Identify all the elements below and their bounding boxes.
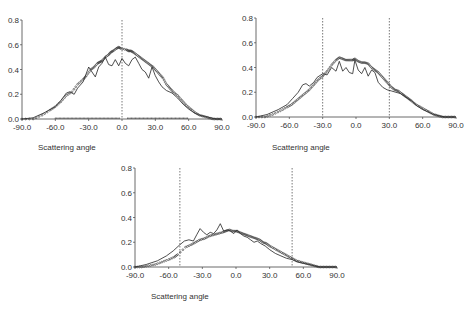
data-point	[60, 101, 62, 103]
data-point	[172, 257, 174, 259]
x-tick-label: 60.0	[415, 121, 431, 130]
data-point	[131, 118, 132, 119]
data-point	[179, 251, 181, 253]
data-point	[72, 118, 73, 119]
data-point	[73, 88, 75, 90]
data-point	[184, 118, 185, 119]
data-point	[56, 118, 57, 119]
data-point	[163, 118, 164, 119]
data-point	[170, 258, 172, 260]
data-point	[150, 265, 152, 267]
y-tick-label: 0.6	[8, 41, 20, 50]
data-point	[79, 82, 81, 84]
panel-top-right: 0.00.20.40.60.8-90.0-60.0-30.00.030.060.…	[242, 14, 464, 152]
data-point	[59, 118, 60, 119]
data-point	[154, 264, 156, 266]
x-tick-label: -60.0	[160, 271, 179, 280]
x-tick-label: 30.0	[262, 271, 278, 280]
data-point	[115, 118, 116, 119]
data-point	[150, 118, 151, 119]
data-point	[85, 118, 86, 119]
figure-canvas: 0.00.20.40.60.8-90.0-60.0-30.00.030.060.…	[0, 0, 473, 311]
data-point	[134, 118, 135, 119]
data-point	[186, 118, 187, 119]
panel-bottom: 0.00.20.40.60.8-90.0-60.0-30.00.030.060.…	[121, 164, 345, 301]
data-point	[136, 118, 137, 119]
data-point	[323, 74, 325, 76]
x-tick-label: -90.0	[13, 123, 32, 132]
x-tick-label: 60.0	[296, 271, 312, 280]
data-point	[145, 265, 147, 267]
x-tick-label: 30.0	[382, 121, 398, 130]
data-point	[68, 118, 69, 119]
data-point	[157, 263, 159, 265]
x-tick-label: 60.0	[181, 123, 197, 132]
data-point	[188, 245, 190, 247]
data-point	[112, 118, 113, 119]
data-point	[64, 97, 66, 99]
data-point	[107, 118, 108, 119]
data-point	[99, 118, 100, 119]
data-point	[97, 118, 98, 119]
data-point	[130, 118, 131, 119]
data-point	[163, 260, 165, 262]
data-point	[158, 118, 159, 119]
x-tick-label: -60.0	[46, 123, 65, 132]
data-point	[132, 118, 133, 119]
x-tick-label: -30.0	[314, 121, 333, 130]
data-point	[105, 118, 106, 119]
data-point	[96, 118, 97, 119]
data-point	[313, 84, 315, 86]
x-tick-label: -90.0	[126, 271, 145, 280]
data-point	[269, 114, 271, 116]
data-point	[109, 118, 110, 119]
data-point	[178, 118, 179, 119]
data-point	[180, 98, 182, 100]
data-point	[44, 113, 46, 115]
data-point	[103, 118, 104, 119]
data-point	[159, 262, 161, 264]
data-point	[166, 260, 168, 262]
data-point	[187, 118, 188, 119]
data-point	[95, 118, 96, 119]
data-point	[174, 118, 175, 119]
data-point	[58, 102, 60, 104]
data-point	[177, 95, 179, 97]
data-point	[316, 81, 318, 83]
data-point	[164, 118, 165, 119]
x-tick-label: 90.0	[214, 123, 230, 132]
x-tick-label: 30.0	[148, 123, 164, 132]
data-point	[177, 254, 179, 256]
data-point	[143, 118, 144, 119]
data-point	[171, 118, 172, 119]
x-tick-label: -60.0	[280, 121, 299, 130]
data-point	[84, 118, 85, 119]
data-point	[277, 111, 279, 113]
data-point	[61, 118, 62, 119]
y-tick-label: 0.8	[242, 14, 254, 23]
data-point	[310, 87, 312, 89]
y-tick-label: 0.2	[8, 90, 20, 99]
y-tick-label: 0.2	[242, 88, 254, 97]
data-point	[38, 116, 40, 118]
x-tick-label: -30.0	[80, 123, 99, 132]
data-point	[156, 118, 157, 119]
data-point	[88, 118, 89, 119]
data-point	[168, 118, 169, 119]
data-point	[175, 118, 176, 119]
data-point	[181, 100, 183, 102]
data-point	[80, 80, 82, 82]
data-point	[164, 81, 166, 83]
data-point	[166, 118, 167, 119]
data-point	[76, 118, 77, 119]
y-tick-label: 0.4	[242, 64, 254, 73]
data-point	[127, 118, 128, 119]
data-point	[151, 118, 152, 119]
data-point	[178, 96, 180, 98]
data-point	[135, 118, 136, 119]
dotted-measurements	[255, 57, 455, 118]
y-tick-label: 0.6	[242, 39, 254, 48]
data-point	[308, 89, 310, 91]
data-point	[128, 118, 129, 119]
data-point	[180, 118, 181, 119]
